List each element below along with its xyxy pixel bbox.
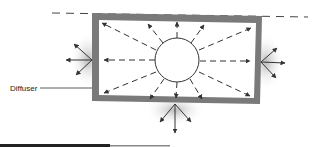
light-source-circle: [155, 38, 199, 82]
diffuser-diagram: Diffuser: [0, 0, 313, 147]
bottom-rule: [0, 144, 110, 147]
bottom-rule-fade: [110, 145, 170, 147]
diffuser-label: Diffuser: [10, 84, 38, 93]
